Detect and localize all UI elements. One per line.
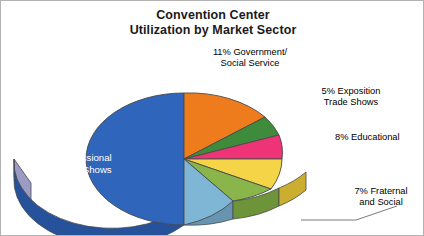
slice-label-government: 11% Government/ Social Service [197, 47, 303, 70]
slice-label-exposition: 5% Exposition Trade Shows [301, 86, 401, 109]
slice-label-fraternal: 7% Fraternal and Social [339, 186, 423, 209]
slice-label-professional-line-2: and Trade Shows [37, 164, 167, 176]
slice-label-professional-line-1: 45% Professional [37, 152, 167, 164]
slice-label-exposition-line-2: Trade Shows [301, 97, 401, 108]
slice-depth-fraternal [279, 172, 306, 206]
slice-label-fraternal-line-2: and Social [339, 197, 423, 208]
slice-label-exposition-line-1: 5% Exposition [301, 86, 401, 97]
slice-label-government-line-1: 11% Government/ [197, 47, 303, 58]
slice-label-educational-line-1: 8% Educational [335, 132, 424, 143]
slice-label-educational: 8% Educational [335, 132, 424, 143]
slice-label-government-line-2: Social Service [197, 58, 303, 69]
slice-label-professional: 45% Professional and Trade Shows [37, 152, 167, 176]
slice-label-fraternal-line-1: 7% Fraternal [339, 186, 423, 197]
chart-frame: Convention Center Utilization by Market … [0, 0, 424, 236]
